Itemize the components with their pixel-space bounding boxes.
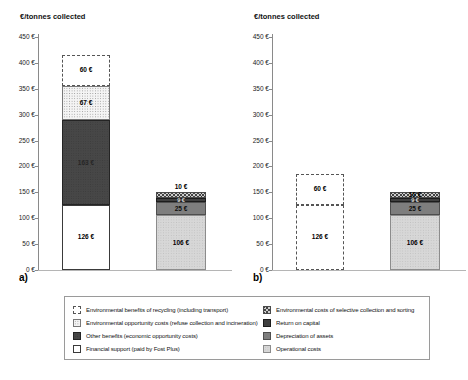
y-tick-mark xyxy=(35,218,38,219)
legend-box: Environmental benefits of recycling (inc… xyxy=(64,296,430,360)
bar-segment-return_on_capital xyxy=(390,198,440,203)
y-tick-mark xyxy=(35,166,38,167)
y-tick-label: 400 € xyxy=(0,59,35,67)
y-tick-mark xyxy=(269,37,272,38)
legend-item: Other benefits (economic opportunity cos… xyxy=(73,329,258,342)
y-tick-label: 0 € xyxy=(234,266,269,274)
depreciation-swatch xyxy=(263,332,271,340)
y-tick-mark xyxy=(35,244,38,245)
legend-item-label: Operational costs xyxy=(276,346,321,352)
legend-column-right: Environmental costs of selective collect… xyxy=(263,303,414,355)
y-tick-mark xyxy=(269,218,272,219)
bar-segment-env_benefits xyxy=(296,174,344,205)
financial_support-swatch xyxy=(73,345,81,353)
y-tick-label: 400 € xyxy=(234,59,269,67)
bar-segment-operational xyxy=(390,215,440,270)
legend-item: Operational costs xyxy=(263,342,414,355)
bar-segment-operational xyxy=(156,215,206,270)
y-tick-mark xyxy=(35,63,38,64)
legend-item: Environmental opportunity costs (refuse … xyxy=(73,316,258,329)
legend-item-label: Depreciation of assets xyxy=(276,333,333,339)
y-tick-label: 100 € xyxy=(0,214,35,222)
bar-segment-financial_support xyxy=(296,205,344,270)
y-tick-mark xyxy=(269,115,272,116)
y-tick-label: 450 € xyxy=(0,33,35,41)
y-tick-label: 250 € xyxy=(0,137,35,145)
bar-segment-depreciation xyxy=(390,202,440,215)
legend-column-left: Environmental benefits of recycling (inc… xyxy=(73,303,258,355)
bar-segment-env_benefits xyxy=(62,55,110,86)
bar-segment-label: 10 € xyxy=(156,183,206,191)
chart-panel-b: €/tonnes collected b) 450 €400 €350 €300… xyxy=(234,0,468,292)
bar-segment-other_benefits xyxy=(62,120,110,204)
legend-item: Depreciation of assets xyxy=(263,329,414,342)
env_benefits-swatch xyxy=(73,306,81,314)
y-tick-mark xyxy=(269,89,272,90)
figure: €/tonnes collected a) 450 €400 €350 €300… xyxy=(0,0,468,380)
bar-segment-return_on_capital xyxy=(156,198,206,203)
y-tick-label: 450 € xyxy=(234,33,269,41)
y-tick-label: 300 € xyxy=(0,111,35,119)
legend-item: Return on capital xyxy=(263,316,414,329)
y-tick-mark xyxy=(35,141,38,142)
y-tick-label: 350 € xyxy=(0,85,35,93)
y-tick-mark xyxy=(269,270,272,271)
y-axis-line xyxy=(38,34,39,271)
y-tick-mark xyxy=(35,37,38,38)
y-tick-label: 50 € xyxy=(0,240,35,248)
legend-item: Financial support (paid by Fost Plus) xyxy=(73,342,258,355)
y-tick-mark xyxy=(269,166,272,167)
legend-item-label: Financial support (paid by Fost Plus) xyxy=(86,346,180,352)
y-tick-mark xyxy=(269,192,272,193)
bar-segment-env_costs_selective xyxy=(390,192,440,197)
y-tick-label: 300 € xyxy=(234,111,269,119)
legend-item-label: Return on capital xyxy=(276,320,320,326)
y-tick-mark xyxy=(35,192,38,193)
y-tick-mark xyxy=(269,141,272,142)
x-axis-line xyxy=(272,270,466,271)
bar-segment-financial_support xyxy=(62,205,110,270)
env_opportunity-swatch xyxy=(73,319,81,327)
bar-segment-depreciation xyxy=(156,202,206,215)
bar-segment-env_opportunity xyxy=(62,86,110,121)
y-tick-label: 150 € xyxy=(0,188,35,196)
y-tick-mark xyxy=(35,115,38,116)
y-tick-mark xyxy=(269,63,272,64)
legend-item-label: Environmental costs of selective collect… xyxy=(276,307,414,313)
y-tick-label: 0 € xyxy=(0,266,35,274)
y-tick-label: 100 € xyxy=(234,214,269,222)
y-axis-title: €/tonnes collected xyxy=(20,12,85,21)
env_costs_selective-swatch xyxy=(263,306,271,314)
y-tick-mark xyxy=(35,270,38,271)
operational-swatch xyxy=(263,345,271,353)
x-axis-line xyxy=(38,270,232,271)
bar-segment-env_costs_selective xyxy=(156,192,206,197)
return_on_capital-swatch xyxy=(263,319,271,327)
y-tick-label: 250 € xyxy=(234,137,269,145)
y-tick-label: 50 € xyxy=(234,240,269,248)
legend-item-label: Environmental benefits of recycling (inc… xyxy=(86,307,228,313)
y-tick-label: 200 € xyxy=(0,162,35,170)
y-tick-label: 150 € xyxy=(234,188,269,196)
y-axis-line xyxy=(272,34,273,271)
legend-item-label: Other benefits (economic opportunity cos… xyxy=(86,333,198,339)
y-tick-label: 200 € xyxy=(234,162,269,170)
y-tick-label: 350 € xyxy=(234,85,269,93)
y-axis-title: €/tonnes collected xyxy=(254,12,319,21)
y-tick-mark xyxy=(35,89,38,90)
y-tick-mark xyxy=(269,244,272,245)
legend-item: Environmental costs of selective collect… xyxy=(263,303,414,316)
legend-item: Environmental benefits of recycling (inc… xyxy=(73,303,258,316)
legend-item-label: Environmental opportunity costs (refuse … xyxy=(86,320,258,326)
other_benefits-swatch xyxy=(73,332,81,340)
chart-panel-a: €/tonnes collected a) 450 €400 €350 €300… xyxy=(0,0,234,292)
